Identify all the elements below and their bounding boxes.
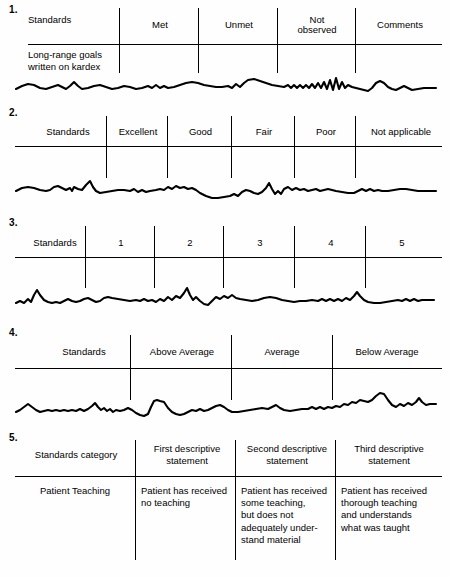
column-header-poor: Poor	[297, 118, 355, 146]
header-rule-1	[28, 44, 442, 45]
section-1: 1. Standards Met Unmet Not observed Comm…	[0, 0, 450, 105]
row-label-standards-3: Standards	[24, 229, 86, 257]
column-divider-3-b	[154, 226, 155, 288]
column-header-2: 2	[157, 229, 223, 257]
column-header-4: 4	[297, 229, 365, 257]
section-5: 5. Standards category First descriptive …	[0, 430, 450, 578]
body-cell-third-statement: Patient has received thorough teaching a…	[341, 485, 443, 534]
column-divider-2-b	[167, 116, 168, 178]
header-rule-4	[15, 368, 442, 369]
column-header-below-average: Below Average	[335, 338, 439, 366]
column-divider-3-a	[85, 226, 86, 288]
section-4: 4. Standards Above Average Average Below…	[0, 320, 450, 430]
column-divider-2-d	[294, 116, 295, 178]
row-label-long-range-goals: Long-range goals written on kardex	[28, 49, 128, 73]
column-header-excellent: Excellent	[109, 118, 167, 146]
obscured-line-1	[0, 74, 450, 100]
column-header-unmet: Unmet	[201, 11, 277, 39]
column-header-fair: Fair	[234, 118, 294, 146]
column-header-not-observed: Not observed	[280, 11, 354, 39]
column-header-met: Met	[122, 11, 198, 39]
column-divider-5-a	[135, 440, 136, 560]
obscured-line-2	[0, 177, 450, 205]
column-header-not-applicable: Not applicable	[358, 118, 444, 146]
column-header-first-descriptive-statement: First descriptive statement	[140, 443, 234, 466]
column-header-3: 3	[226, 229, 294, 257]
column-divider-2-c	[231, 116, 232, 178]
column-divider-1-d	[355, 8, 356, 73]
column-header-comments: Comments	[358, 11, 442, 39]
column-divider-3-c	[223, 226, 224, 288]
column-divider-3-d	[294, 226, 295, 288]
section-number-1: 1.	[9, 5, 18, 15]
column-divider-3-e	[365, 226, 366, 288]
section-3: 3. Standards 1 2 3 4 5	[0, 215, 450, 320]
column-header-above-average: Above Average	[134, 338, 230, 366]
row-label-standards-category: Standards category	[18, 449, 134, 461]
column-header-third-descriptive-statement: Third descriptive statement	[339, 443, 439, 466]
column-header-second-descriptive-statement: Second descriptive statement	[239, 443, 335, 466]
row-label-standards-1: Standards	[28, 15, 123, 26]
section-number-3: 3.	[9, 218, 18, 228]
body-cell-category-patient-teaching: Patient Teaching	[18, 485, 132, 497]
row-label-standards-2: Standards	[28, 118, 108, 146]
scanned-page: 1. Standards Met Unmet Not observed Comm…	[0, 0, 450, 578]
obscured-line-4	[0, 390, 450, 422]
row-label-standards-4: Standards	[38, 338, 130, 366]
header-rule-5	[15, 476, 442, 477]
column-divider-5-b	[235, 440, 236, 560]
column-header-good: Good	[170, 118, 231, 146]
section-number-5: 5.	[9, 433, 18, 443]
obscured-line-3	[0, 285, 450, 313]
body-cell-second-statement: Patient has received some teaching, but …	[241, 485, 337, 546]
column-divider-1-c	[277, 8, 278, 73]
column-header-5: 5	[368, 229, 436, 257]
column-header-average: Average	[234, 338, 330, 366]
section-number-4: 4.	[9, 328, 18, 338]
column-divider-1-b	[198, 8, 199, 73]
body-cell-first-statement: Patient has received no teaching	[141, 485, 235, 509]
header-rule-2	[15, 146, 442, 147]
column-divider-2-a	[106, 116, 107, 178]
header-rule-3	[15, 257, 442, 258]
section-number-2: 2.	[9, 108, 18, 118]
column-header-1: 1	[88, 229, 154, 257]
section-2: 2. Standards Excellent Good Fair Poor No…	[0, 105, 450, 215]
column-divider-2-e	[355, 116, 356, 178]
